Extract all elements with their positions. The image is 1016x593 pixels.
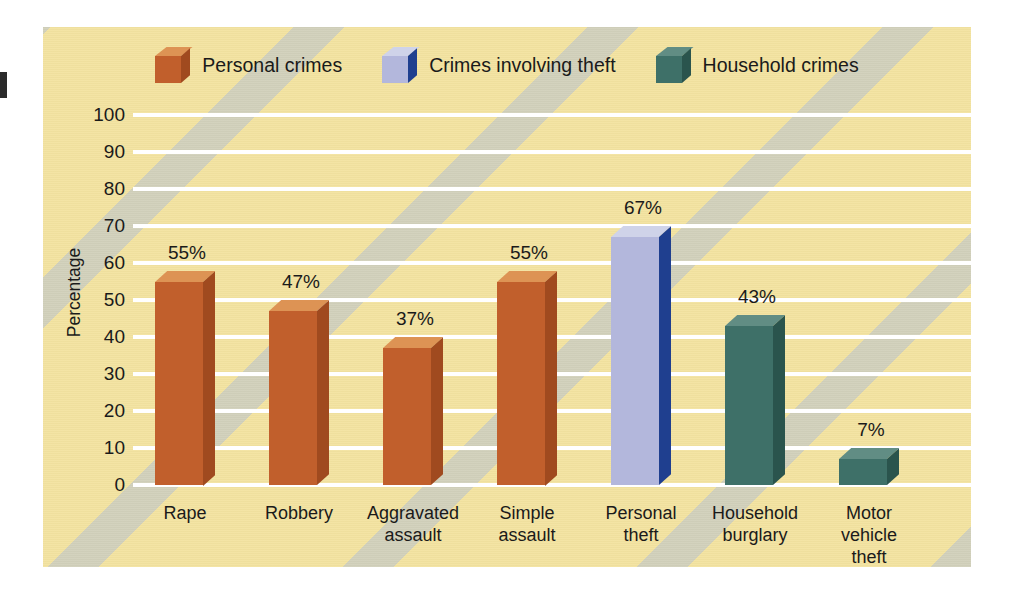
x-axis-category-label: Householdburglary xyxy=(695,503,815,547)
bar xyxy=(611,237,659,485)
category-label-line: burglary xyxy=(695,525,815,547)
bar-value-label: 55% xyxy=(510,242,548,264)
bar-front-face xyxy=(839,459,887,485)
y-axis-tick-label: 10 xyxy=(61,437,125,459)
category-label-line: vehicle xyxy=(809,525,929,547)
bar-front-face xyxy=(383,348,431,485)
bar-side-face xyxy=(773,315,785,485)
bar-side-face xyxy=(659,226,671,485)
bar-value-label: 67% xyxy=(624,197,662,219)
scan-artifact-mark xyxy=(0,72,7,98)
x-axis-category-label: Personaltheft xyxy=(581,503,701,547)
category-label-line: assault xyxy=(353,525,473,547)
gridline xyxy=(133,113,971,117)
x-axis-category-label: Motorvehicletheft xyxy=(809,503,929,567)
category-label-line: Motor xyxy=(809,503,929,525)
bar-front-face xyxy=(725,326,773,485)
y-axis-tick-label: 70 xyxy=(61,215,125,237)
category-label-line: theft xyxy=(581,525,701,547)
x-axis-category-label: Aggravatedassault xyxy=(353,503,473,547)
bar-value-label: 43% xyxy=(738,286,776,308)
bar-value-label: 47% xyxy=(282,271,320,293)
bar-side-face xyxy=(431,337,443,485)
y-axis-tick-label: 80 xyxy=(61,178,125,200)
category-label-line: assault xyxy=(467,525,587,547)
gridline xyxy=(133,261,971,265)
x-axis-category-label: Robbery xyxy=(239,503,359,525)
bar-value-label: 7% xyxy=(857,419,884,441)
plot-area: Percentage 1009080706050403020100 55%47%… xyxy=(43,27,971,567)
category-label-line: Aggravated xyxy=(353,503,473,525)
bar-front-face xyxy=(497,282,545,486)
y-axis-tick-label: 50 xyxy=(61,289,125,311)
bar-value-label: 55% xyxy=(168,242,206,264)
bar xyxy=(497,282,545,486)
y-axis-tick-label: 100 xyxy=(61,104,125,126)
bar-side-face xyxy=(545,271,557,485)
category-label-line: Rape xyxy=(125,503,245,525)
chart-panel: Personal crimesCrimes involving theftHou… xyxy=(43,27,971,567)
bar-value-label: 37% xyxy=(396,308,434,330)
gridline xyxy=(133,150,971,154)
gridline xyxy=(133,224,971,228)
category-label-line: Personal xyxy=(581,503,701,525)
bar xyxy=(155,282,203,486)
y-axis-tick-label: 40 xyxy=(61,326,125,348)
y-axis-tick-label: 20 xyxy=(61,400,125,422)
bar xyxy=(725,326,773,485)
category-label-line: theft xyxy=(809,547,929,567)
bar-front-face xyxy=(269,311,317,485)
bar-front-face xyxy=(611,237,659,485)
y-axis-tick-label: 30 xyxy=(61,363,125,385)
y-axis-tick-label: 0 xyxy=(61,474,125,496)
gridline xyxy=(133,187,971,191)
x-axis-category-label: Simpleassault xyxy=(467,503,587,547)
y-axis-tick-label: 60 xyxy=(61,252,125,274)
y-axis-tick-label: 90 xyxy=(61,141,125,163)
bar-side-face xyxy=(203,271,215,485)
bar-front-face xyxy=(155,282,203,486)
category-label-line: Household xyxy=(695,503,815,525)
bar xyxy=(383,348,431,485)
bar xyxy=(839,459,887,485)
x-axis-category-label: Rape xyxy=(125,503,245,525)
bar-side-face xyxy=(317,300,329,485)
category-label-line: Robbery xyxy=(239,503,359,525)
bar xyxy=(269,311,317,485)
category-label-line: Simple xyxy=(467,503,587,525)
